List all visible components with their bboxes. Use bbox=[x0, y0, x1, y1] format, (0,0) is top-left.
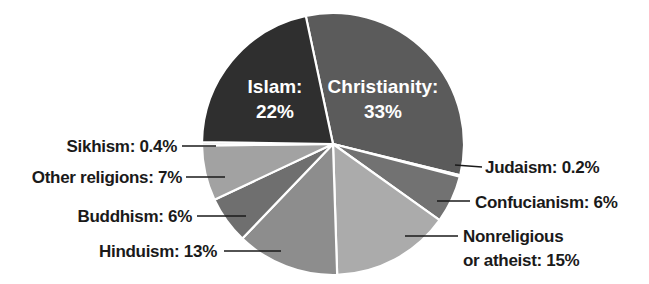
pie-chart: Islam: 22% Christianity: 33% Sikhism: 0.… bbox=[0, 0, 649, 284]
label-other: Other religions: 7% bbox=[32, 168, 182, 187]
label-judaism: Judaism: 0.2% bbox=[485, 158, 599, 177]
label-christianity: Christianity: bbox=[328, 76, 439, 97]
label-sikhism: Sikhism: 0.4% bbox=[67, 137, 178, 156]
label-buddhism: Buddhism: 6% bbox=[78, 207, 193, 226]
label-islam-pct: 22% bbox=[256, 101, 294, 122]
label-confucianism: Confucianism: 6% bbox=[475, 193, 618, 212]
label-nonreligious-2: or atheist: 15% bbox=[463, 251, 580, 270]
label-islam: Islam: bbox=[248, 76, 303, 97]
label-hinduism: Hinduism: 13% bbox=[99, 242, 217, 261]
label-christianity-pct: 33% bbox=[364, 101, 402, 122]
label-nonreligious-1: Nonreligious bbox=[463, 227, 563, 246]
